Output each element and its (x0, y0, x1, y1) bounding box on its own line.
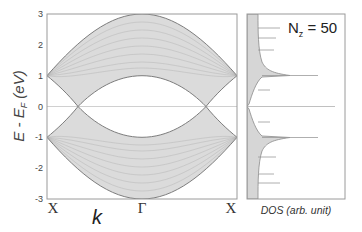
nz-annotation: Nz = 50 (288, 19, 337, 39)
dos-plot-area (247, 14, 335, 199)
y-tick: -3 (35, 194, 43, 204)
valence-band (47, 107, 237, 200)
y-tick: 0 (38, 102, 43, 112)
conduction-band (47, 14, 237, 107)
x-tick-X-left: X (48, 200, 59, 216)
x-axis-label: k (92, 206, 103, 228)
y-tick: 2 (38, 40, 43, 50)
y-axis-label: E - EF (eV) (10, 70, 29, 141)
x-tick-gamma: Γ (138, 200, 147, 216)
y-tick: 1 (38, 71, 43, 81)
svg-text:E - EF (eV): E - EF (eV) (10, 70, 29, 141)
y-tick: 3 (38, 9, 43, 19)
band-plot-area (47, 14, 237, 199)
y-tick: -2 (35, 163, 43, 173)
y-tick-labels: 3 2 1 0 -1 -2 -3 (35, 9, 43, 204)
dos-axis-label: DOS (arb. unit) (261, 204, 332, 216)
x-tick-X-right: X (226, 200, 237, 216)
band-structure-figure: E - EF (eV) 3 2 1 0 -1 -2 -3 (0, 0, 362, 232)
y-tick: -1 (35, 132, 43, 142)
